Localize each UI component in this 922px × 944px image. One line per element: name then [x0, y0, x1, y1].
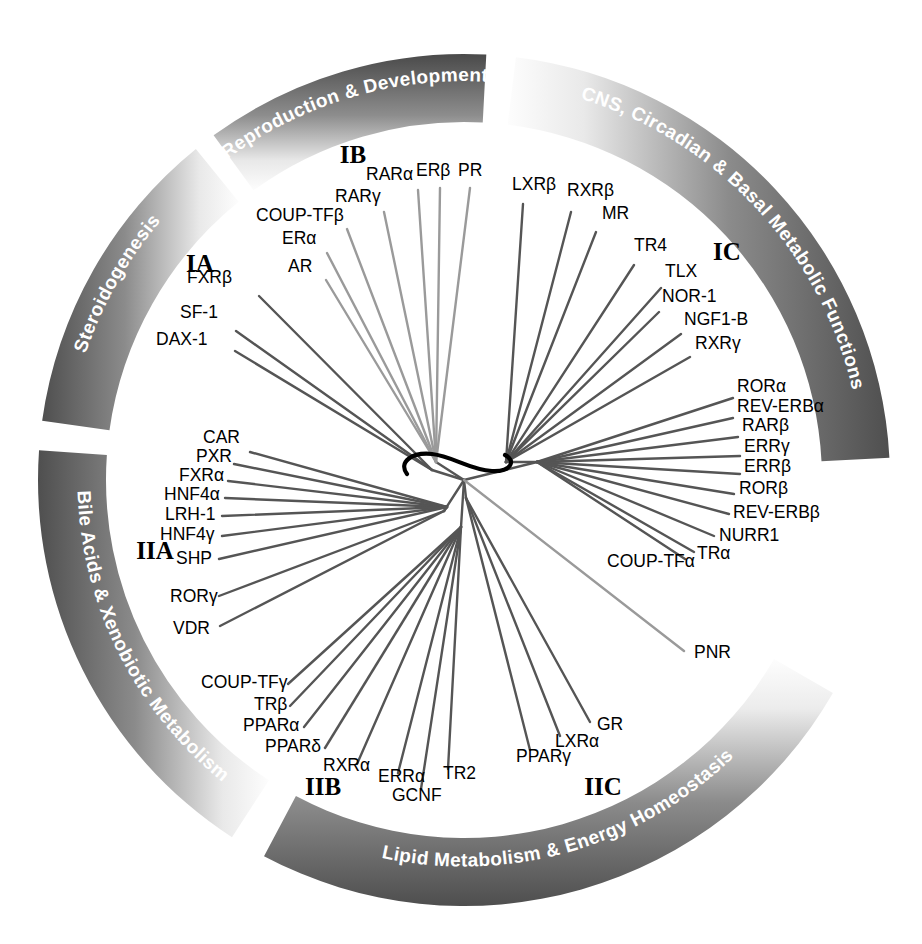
gene-label-PPAR: PPARα [243, 715, 299, 735]
gene-label-REVERB: REV-ERBβ [733, 502, 820, 522]
gene-label-ROR: RORβ [739, 478, 788, 498]
tree-branch-ER [327, 253, 436, 462]
gene-label-FXR: FXRα [179, 465, 224, 485]
gene-label-PR: PR [458, 160, 482, 180]
gene-label-NOR1: NOR-1 [662, 286, 716, 306]
tree-branch-TR4 [506, 265, 634, 462]
tree-branch-PPAR [466, 498, 530, 750]
gene-label-TR2: TR2 [443, 763, 476, 783]
tree-branches [219, 188, 740, 789]
gene-label-RAR: RARβ [742, 415, 789, 435]
gene-label-AR: AR [288, 256, 312, 276]
gene-label-PPAR: PPARδ [265, 736, 321, 756]
gene-label-PNR: PNR [694, 642, 731, 662]
group-label-IIA: IIA [136, 537, 174, 564]
gene-label-TR: TRβ [254, 694, 287, 714]
gene-label-ERR: ERRβ [744, 456, 791, 476]
gene-label-RAR: RARγ [335, 186, 381, 206]
gene-label-ERR: ERRγ [744, 436, 790, 456]
arc-sector-cns [508, 57, 890, 461]
tree-branch-PPAR [304, 527, 461, 727]
gene-label-HNF4: HNF4α [164, 484, 220, 504]
arc-sector-lipid [264, 659, 833, 906]
gene-label-DAX1: DAX-1 [156, 329, 208, 349]
gene-label-TLX: TLX [665, 261, 697, 281]
tree-branch-ROR [219, 511, 444, 596]
group-label-IA: IA [186, 250, 214, 277]
gene-label-COUPTF: COUP-TFγ [201, 672, 288, 692]
gene-label-TR4: TR4 [634, 235, 667, 255]
tree-internal-branch [461, 480, 464, 527]
tree-branch-DAX1 [235, 351, 432, 470]
gene-label-RXR: RXRβ [567, 180, 614, 200]
gene-label-PXR: PXR [196, 446, 232, 466]
gene-label-LXR: LXRα [555, 731, 599, 751]
tree-internal-branch [432, 470, 464, 480]
gene-label-ER: ERβ [416, 160, 450, 180]
gene-label-ER: ERα [282, 228, 316, 248]
group-label-IIB: IIB [305, 773, 341, 800]
gene-label-CAR: CAR [203, 427, 240, 447]
tree-branch-ROR [537, 398, 733, 462]
tree-branch-LXR [466, 498, 560, 736]
gene-label-COUPTF: COUP-TFβ [256, 205, 344, 225]
tree-branch-GR [466, 498, 590, 722]
arc-sector-steroidogenesis [42, 149, 239, 430]
tree-branch-PPAR [325, 527, 461, 748]
gene-label-ERR: ERRα [378, 766, 425, 786]
gene-label-LXR: LXRβ [512, 174, 556, 194]
tree-branch-COUPTF [288, 527, 461, 684]
gene-label-TR: TRα [697, 543, 730, 563]
gene-label-RXR: RXRα [323, 755, 370, 775]
gene-label-NURR1: NURR1 [719, 525, 779, 545]
group-label-IB: IB [340, 141, 366, 168]
tree-branch-NURR1 [537, 462, 714, 536]
gene-label-SHP: SHP [176, 548, 212, 568]
tree-branch-TR [290, 527, 461, 706]
gene-label-GCNF: GCNF [392, 785, 442, 805]
group-label-IC: IC [713, 238, 741, 265]
gene-label-GR: GR [597, 714, 623, 734]
gene-label-LRH1: LRH-1 [165, 504, 216, 524]
gene-label-RXR: RXRγ [695, 333, 741, 353]
figure-canvas: SteroidogenesisReproduction & Developmen… [0, 0, 922, 944]
gene-label-RAR: RARα [366, 164, 413, 184]
gene-label-VDR: VDR [173, 618, 210, 638]
tree-branch-COUPTF [537, 462, 685, 559]
tree-branch-PR [436, 188, 470, 462]
gene-label-NGF1B: NGF1-B [684, 309, 748, 329]
gene-label-REVERB: REV-ERBα [737, 396, 824, 416]
gene-label-MR: MR [602, 203, 629, 223]
radial-phylogeny-svg: SteroidogenesisReproduction & Developmen… [0, 0, 922, 944]
gene-label-COUPTF: COUP-TFα [607, 551, 695, 571]
tree-branch-ER [436, 188, 440, 462]
gene-label-SF1: SF-1 [180, 302, 218, 322]
gene-label-ROR: RORα [737, 376, 786, 396]
arc-sector-bile [38, 450, 269, 837]
tree-branch-REVERB [537, 418, 733, 462]
gene-label-ROR: RORγ [170, 586, 218, 606]
group-label-IIC: IIC [584, 773, 622, 800]
tree-internal-branch [436, 462, 464, 480]
